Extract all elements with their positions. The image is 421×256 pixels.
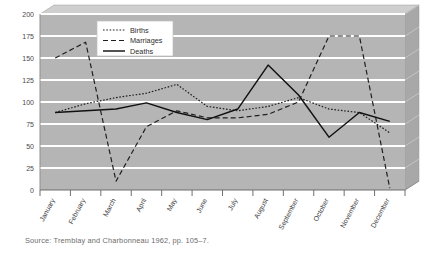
month-label: March [102, 197, 117, 218]
source-note: Source: Tremblay and Charbonneau 1962, p… [25, 236, 209, 245]
y-tick-label: 100 [22, 99, 34, 106]
x-axis-labels: JanuaryFebruaryMarchAprilMayJuneJulyAugu… [38, 197, 391, 232]
month-label: April [135, 197, 149, 214]
plot-top-face [40, 5, 419, 14]
month-label: December [369, 197, 391, 229]
month-label: October [312, 197, 330, 223]
y-tick-label: 175 [22, 33, 34, 40]
y-tick-label: 200 [22, 11, 34, 18]
month-label: November [339, 197, 361, 229]
y-tick-label: 0 [30, 187, 34, 194]
x-axis-ticks [40, 190, 405, 196]
y-tick-label: 25 [26, 165, 34, 172]
y-tick-label: 150 [22, 55, 34, 62]
legend-label-deaths: Deaths [130, 47, 153, 56]
month-label: July [227, 197, 240, 212]
line-chart: 0255075100125150175200JanuaryFebruaryMar… [0, 0, 421, 256]
y-tick-label: 75 [26, 121, 34, 128]
month-label: August [253, 197, 270, 220]
y-tick-label: 50 [26, 143, 34, 150]
month-label: May [165, 197, 179, 213]
legend: BirthsMarriagesDeaths [97, 21, 173, 56]
y-axis-labels: 0255075100125150175200 [22, 11, 34, 194]
legend-label-marriages: Marriages [130, 36, 163, 45]
month-label: September [277, 197, 300, 232]
month-label: January [38, 197, 57, 223]
month-label: February [67, 197, 87, 226]
y-tick-label: 125 [22, 77, 34, 84]
month-label: June [195, 197, 208, 214]
legend-label-births: Births [130, 26, 149, 35]
chart-figure: 0255075100125150175200JanuaryFebruaryMar… [0, 0, 421, 256]
